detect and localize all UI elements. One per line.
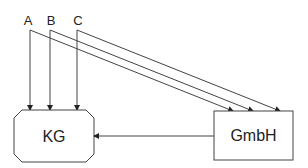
ownership-diagram: A B C KG GmbH	[0, 0, 308, 168]
edge-a-to-gmbh	[30, 30, 233, 111]
node-gmbh-label: GmbH	[230, 127, 276, 144]
node-kg-label: KG	[42, 128, 65, 145]
source-label-b: B	[47, 13, 56, 28]
edge-c-to-gmbh	[77, 30, 280, 111]
source-label-c: C	[73, 13, 82, 28]
edge-b-to-gmbh	[50, 30, 253, 111]
source-label-a: A	[24, 13, 33, 28]
